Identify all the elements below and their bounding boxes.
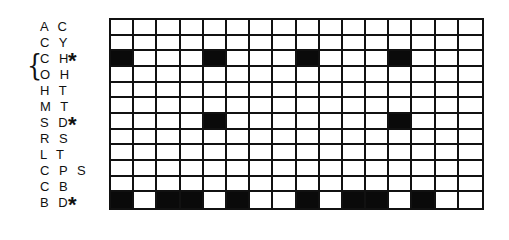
- grid-cell[interactable]: [366, 67, 389, 83]
- grid-cell[interactable]: [366, 145, 389, 161]
- grid-cell[interactable]: [366, 20, 389, 36]
- grid-cell[interactable]: [134, 36, 157, 52]
- grid-cell[interactable]: [459, 192, 482, 208]
- grid-cell[interactable]: [343, 192, 366, 208]
- grid-cell[interactable]: [273, 161, 296, 177]
- grid-cell[interactable]: [204, 20, 227, 36]
- grid-cell[interactable]: [227, 51, 250, 67]
- grid-cell[interactable]: [157, 114, 180, 130]
- grid-cell[interactable]: [227, 130, 250, 146]
- grid-cell[interactable]: [297, 20, 320, 36]
- grid-cell[interactable]: [343, 67, 366, 83]
- grid-cell[interactable]: [157, 145, 180, 161]
- grid-cell[interactable]: [459, 98, 482, 114]
- grid-cell[interactable]: [320, 145, 343, 161]
- grid-cell[interactable]: [111, 192, 134, 208]
- grid-cell[interactable]: [273, 114, 296, 130]
- grid-cell[interactable]: [134, 51, 157, 67]
- grid-cell[interactable]: [250, 130, 273, 146]
- grid-cell[interactable]: [297, 36, 320, 52]
- grid-cell[interactable]: [204, 177, 227, 193]
- grid-cell[interactable]: [320, 114, 343, 130]
- grid-cell[interactable]: [134, 161, 157, 177]
- grid-cell[interactable]: [297, 51, 320, 67]
- grid-cell[interactable]: [412, 51, 435, 67]
- grid-cell[interactable]: [134, 177, 157, 193]
- grid-cell[interactable]: [204, 192, 227, 208]
- grid-cell[interactable]: [111, 67, 134, 83]
- grid-cell[interactable]: [459, 177, 482, 193]
- grid-cell[interactable]: [366, 114, 389, 130]
- grid-cell[interactable]: [343, 20, 366, 36]
- grid-cell[interactable]: [250, 114, 273, 130]
- grid-cell[interactable]: [204, 36, 227, 52]
- grid-cell[interactable]: [250, 98, 273, 114]
- grid-cell[interactable]: [436, 114, 459, 130]
- grid-cell[interactable]: [366, 83, 389, 99]
- grid-cell[interactable]: [134, 98, 157, 114]
- grid-cell[interactable]: [111, 51, 134, 67]
- grid-cell[interactable]: [436, 130, 459, 146]
- grid-cell[interactable]: [111, 98, 134, 114]
- grid-cell[interactable]: [273, 51, 296, 67]
- grid-cell[interactable]: [412, 145, 435, 161]
- grid-cell[interactable]: [459, 67, 482, 83]
- grid-cell[interactable]: [436, 145, 459, 161]
- grid-cell[interactable]: [343, 177, 366, 193]
- grid-cell[interactable]: [436, 161, 459, 177]
- grid-cell[interactable]: [134, 114, 157, 130]
- grid-cell[interactable]: [297, 67, 320, 83]
- grid-cell[interactable]: [181, 114, 204, 130]
- grid-cell[interactable]: [157, 67, 180, 83]
- grid-cell[interactable]: [366, 51, 389, 67]
- grid-cell[interactable]: [273, 83, 296, 99]
- grid-cell[interactable]: [111, 161, 134, 177]
- grid-cell[interactable]: [343, 83, 366, 99]
- grid-cell[interactable]: [320, 51, 343, 67]
- grid-cell[interactable]: [273, 98, 296, 114]
- grid-cell[interactable]: [181, 161, 204, 177]
- grid-cell[interactable]: [459, 20, 482, 36]
- grid-cell[interactable]: [297, 161, 320, 177]
- grid-cell[interactable]: [273, 177, 296, 193]
- grid-cell[interactable]: [412, 114, 435, 130]
- grid-cell[interactable]: [181, 20, 204, 36]
- grid-cell[interactable]: [436, 177, 459, 193]
- grid-cell[interactable]: [459, 161, 482, 177]
- grid-cell[interactable]: [111, 20, 134, 36]
- grid-cell[interactable]: [227, 67, 250, 83]
- grid-cell[interactable]: [157, 98, 180, 114]
- grid-cell[interactable]: [343, 51, 366, 67]
- grid-cell[interactable]: [157, 36, 180, 52]
- grid-cell[interactable]: [111, 36, 134, 52]
- grid-cell[interactable]: [157, 192, 180, 208]
- grid-cell[interactable]: [459, 51, 482, 67]
- grid-cell[interactable]: [273, 145, 296, 161]
- grid-cell[interactable]: [181, 36, 204, 52]
- grid-cell[interactable]: [320, 161, 343, 177]
- grid-cell[interactable]: [343, 98, 366, 114]
- grid-cell[interactable]: [297, 177, 320, 193]
- grid-cell[interactable]: [436, 51, 459, 67]
- grid-cell[interactable]: [273, 20, 296, 36]
- grid-cell[interactable]: [297, 98, 320, 114]
- grid-cell[interactable]: [389, 145, 412, 161]
- grid-cell[interactable]: [227, 114, 250, 130]
- grid-cell[interactable]: [320, 192, 343, 208]
- grid-cell[interactable]: [343, 36, 366, 52]
- grid-cell[interactable]: [227, 192, 250, 208]
- grid-cell[interactable]: [181, 130, 204, 146]
- grid-cell[interactable]: [389, 98, 412, 114]
- grid-cell[interactable]: [320, 98, 343, 114]
- grid-cell[interactable]: [389, 83, 412, 99]
- grid-cell[interactable]: [366, 36, 389, 52]
- grid-cell[interactable]: [343, 161, 366, 177]
- grid-cell[interactable]: [320, 36, 343, 52]
- grid-cell[interactable]: [366, 130, 389, 146]
- grid-cell[interactable]: [204, 145, 227, 161]
- grid-cell[interactable]: [227, 145, 250, 161]
- grid-cell[interactable]: [366, 192, 389, 208]
- grid-cell[interactable]: [204, 67, 227, 83]
- grid-cell[interactable]: [227, 177, 250, 193]
- grid-cell[interactable]: [436, 98, 459, 114]
